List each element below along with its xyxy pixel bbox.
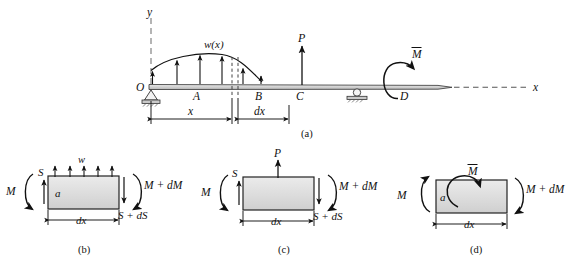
element-c-shear-right-label: S + dS xyxy=(313,210,343,222)
roller-support-icon xyxy=(347,89,367,103)
element-b-section-label: a xyxy=(55,187,61,199)
element-b-shear-right-label: S + dS xyxy=(118,209,148,221)
applied-moment-arc xyxy=(384,63,414,99)
distributed-load-arrows xyxy=(153,56,262,85)
element-b-load-label: w xyxy=(78,154,85,165)
point-a-label: A xyxy=(192,90,201,102)
element-b-load-arrows xyxy=(55,166,112,177)
element-b-shear-left-label: S xyxy=(38,166,44,178)
element-c-moment-right-label: M + dM xyxy=(338,180,379,192)
element-c-body xyxy=(243,177,314,210)
element-b-moment-right-label: M + dM xyxy=(143,179,184,191)
element-c-dimension-label: dx xyxy=(271,215,282,227)
element-d-moment-left-arc xyxy=(421,177,430,212)
distributed-load-curve xyxy=(151,54,262,82)
caption-c: (c) xyxy=(278,244,290,256)
panel-a: y x O xyxy=(136,6,539,140)
element-d-moment-right-arc xyxy=(515,178,523,213)
applied-moment-label-group: M xyxy=(411,48,423,61)
element-b-dimension-label: dx xyxy=(76,214,87,226)
x-axis-label: x xyxy=(532,81,539,93)
dimension-x-label: x xyxy=(187,105,194,117)
point-c-label: C xyxy=(296,90,304,102)
panel-c: P S M S + dS M + dM dx (c) xyxy=(200,147,379,256)
caption-a: (a) xyxy=(301,128,313,140)
element-c-point-load-label: P xyxy=(273,147,281,159)
element-d-body xyxy=(436,180,507,213)
point-b-label: B xyxy=(255,90,262,102)
element-d-moment-right-label: M + dM xyxy=(525,183,566,195)
element-d-dimension-label: dx xyxy=(464,218,475,230)
element-c-shear-left-label: S xyxy=(232,167,238,179)
element-c-moment-right-arc xyxy=(328,175,336,210)
caption-b: (b) xyxy=(78,244,91,256)
element-d-section-label: a xyxy=(440,191,446,203)
point-load-label: P xyxy=(297,31,306,45)
element-d-applied-moment-label: M xyxy=(467,165,479,177)
panel-d: M M M + dM a dx (d) xyxy=(396,165,566,257)
element-b-moment-left-label: M xyxy=(5,185,17,197)
beam-diagram-figure: y x O xyxy=(0,0,566,267)
element-b-moment-right-arc xyxy=(133,174,141,209)
point-d-label: D xyxy=(399,90,409,102)
panel-b: w S M S + dS M + dM a dx (b) xyxy=(5,154,184,256)
element-c-moment-left-label: M xyxy=(200,186,212,198)
applied-moment-label: M xyxy=(411,48,423,60)
dimension-dx-label: dx xyxy=(254,105,266,117)
origin-label: O xyxy=(136,81,145,93)
distributed-load-label: w(x) xyxy=(204,38,224,51)
y-axis-label: y xyxy=(146,6,153,19)
element-d-moment-left-label: M xyxy=(396,189,408,201)
element-c-moment-left-arc xyxy=(220,175,228,210)
element-d-applied-moment-label-group: M xyxy=(467,165,479,178)
caption-d: (d) xyxy=(470,244,483,256)
element-strip-dashed-lines xyxy=(232,57,238,97)
element-b-moment-left-arc xyxy=(25,174,33,209)
